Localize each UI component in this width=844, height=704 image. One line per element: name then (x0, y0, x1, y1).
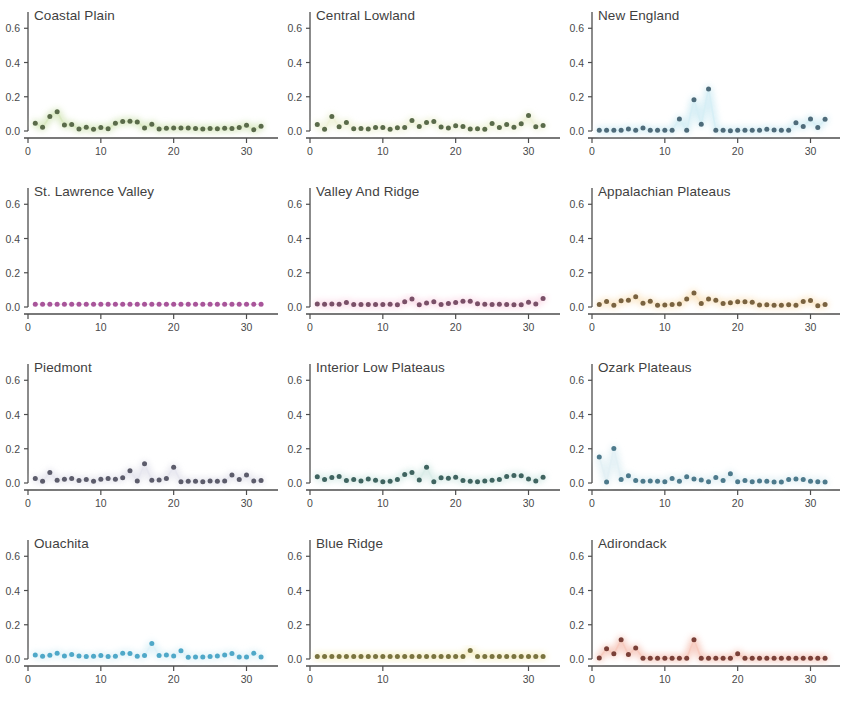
data-point (468, 299, 473, 304)
panel-title: Adirondack (598, 536, 667, 551)
data-point (366, 302, 371, 307)
data-point (113, 477, 118, 482)
x-tick-label: 20 (732, 497, 744, 509)
data-point (91, 654, 96, 659)
data-point (244, 302, 249, 307)
x-tick-label: 30 (523, 673, 535, 685)
data-point (533, 478, 538, 483)
data-point (337, 654, 342, 659)
y-tick-label: 0.4 (287, 585, 302, 597)
data-point (439, 125, 444, 130)
data-point (511, 654, 516, 659)
data-point (511, 302, 516, 307)
data-point (742, 128, 747, 133)
data-point (315, 474, 320, 479)
data-point (446, 125, 451, 130)
data-point (113, 654, 118, 659)
data-point (259, 302, 264, 307)
data-point (453, 123, 458, 128)
data-point (373, 302, 378, 307)
data-point (648, 128, 653, 133)
x-tick-label: 0 (307, 321, 313, 333)
data-point (815, 479, 820, 484)
y-tick-label: 0.4 (569, 409, 584, 421)
data-point (76, 478, 81, 483)
data-point (315, 301, 320, 306)
data-point (490, 478, 495, 483)
panel-title: Coastal Plain (34, 8, 115, 23)
data-point (662, 128, 667, 133)
data-point (237, 654, 242, 659)
data-point (69, 652, 74, 657)
data-point (322, 654, 327, 659)
data-point (815, 303, 820, 308)
data-point (106, 126, 111, 131)
data-point (757, 478, 762, 483)
data-point (47, 114, 52, 119)
data-point (691, 97, 696, 102)
chart-panel-interior-low-plateaus: 0.00.20.40.60102030Interior Low Plateaus (282, 352, 564, 528)
data-point (482, 127, 487, 132)
data-point (475, 126, 480, 131)
data-point (208, 654, 213, 659)
data-point (468, 479, 473, 484)
data-point (186, 655, 191, 660)
series-glow (599, 448, 825, 482)
data-point (793, 120, 798, 125)
data-point (699, 656, 704, 661)
x-tick-label: 20 (732, 145, 744, 157)
data-point (244, 473, 249, 478)
y-tick-label: 0.6 (569, 550, 584, 562)
data-point (677, 479, 682, 484)
y-tick-label: 0.2 (287, 91, 302, 103)
data-point (475, 301, 480, 306)
data-point (626, 298, 631, 303)
y-tick-label: 0.2 (5, 267, 20, 279)
data-point (721, 478, 726, 483)
data-point (713, 128, 718, 133)
chart-panel-appalachian-plateaus: 0.00.20.40.60102030Appalachian Plateaus (564, 176, 844, 352)
data-point (395, 654, 400, 659)
data-point (619, 298, 624, 303)
data-point (604, 479, 609, 484)
y-tick-label: 0.4 (287, 233, 302, 245)
data-point (358, 126, 363, 131)
x-tick-label: 30 (805, 321, 817, 333)
data-point (691, 290, 696, 295)
data-point (713, 298, 718, 303)
data-point (750, 128, 755, 133)
data-point (366, 476, 371, 481)
data-point (482, 478, 487, 483)
y-tick-label: 0.4 (569, 585, 584, 597)
data-point (750, 656, 755, 661)
data-point (409, 470, 414, 475)
data-point (178, 302, 183, 307)
x-tick-label: 0 (25, 321, 31, 333)
data-point (351, 126, 356, 131)
data-point (193, 479, 198, 484)
data-point (106, 476, 111, 481)
y-tick-label: 0.2 (569, 443, 584, 455)
scatter-plot: 0.00.20.40.60102030 (564, 176, 844, 352)
data-point (171, 653, 176, 658)
x-tick-label: 10 (95, 497, 107, 509)
data-point (699, 122, 704, 127)
data-point (215, 653, 220, 658)
data-point (251, 127, 256, 132)
data-point (351, 477, 356, 482)
chart-panel-central-lowland: 0.00.20.40.60102030Central Lowland (282, 0, 564, 176)
y-tick-label: 0.0 (569, 653, 584, 665)
y-tick-label: 0.2 (569, 267, 584, 279)
x-tick-label: 30 (523, 497, 535, 509)
data-point (222, 126, 227, 131)
data-point (69, 302, 74, 307)
x-tick-label: 10 (377, 321, 389, 333)
data-point (178, 648, 183, 653)
data-point (244, 654, 249, 659)
data-point (366, 654, 371, 659)
chart-panel-valley-and-ridge: 0.00.20.40.60102030Valley And Ridge (282, 176, 564, 352)
y-tick-label: 0.0 (287, 477, 302, 489)
data-point (329, 654, 334, 659)
x-tick-label: 30 (241, 145, 253, 157)
data-point (504, 122, 509, 127)
